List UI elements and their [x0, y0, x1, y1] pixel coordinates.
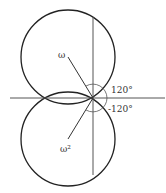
omega-label: ω [58, 50, 65, 60]
cube-roots-diagram: ω ω² 120° -120° [0, 0, 166, 193]
angle-lower-label: -120° [108, 104, 133, 114]
omega-squared-label: ω² [60, 144, 71, 154]
angle-upper-label: 120° [111, 85, 133, 95]
diagram: ω ω² 120° -120° [0, 0, 166, 193]
